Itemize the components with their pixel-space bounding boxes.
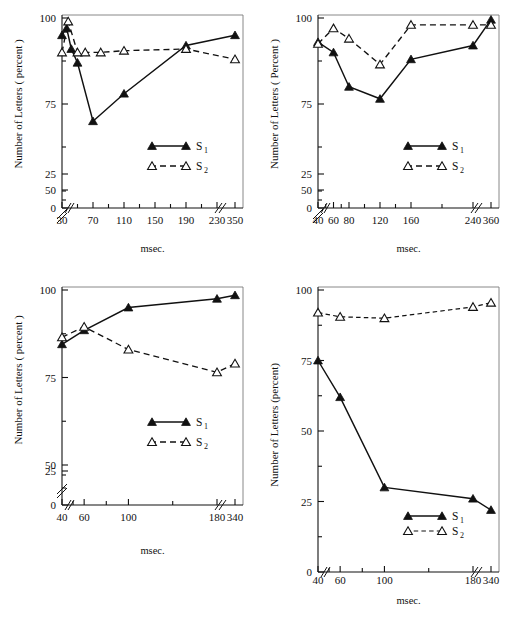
chart-panel-bottom-left: 02550751004060100180340S1S2msec.Number o…: [0, 265, 256, 638]
y-tick-label: 50: [45, 184, 57, 196]
x-axis-title: msec.: [396, 243, 420, 254]
plot-frame: [62, 15, 243, 208]
marker-S2: [469, 303, 478, 311]
x-tick-label: 190: [178, 214, 195, 226]
x-tick-label: 180: [209, 511, 226, 523]
legend-label-s2-sub: 2: [204, 442, 208, 451]
series-line-S1: [62, 28, 235, 121]
x-tick-label: 100: [376, 574, 393, 586]
legend-label-s1: S: [196, 416, 202, 428]
x-tick-label: 60: [328, 214, 340, 226]
marker-S2: [345, 34, 354, 42]
marker-S1: [67, 45, 76, 53]
x-tick-label: 160: [403, 214, 420, 226]
x-axis-title: msec.: [396, 595, 420, 606]
x-tick-label: 150: [147, 214, 164, 226]
series-line-S2: [318, 25, 491, 65]
legend-label-s1-sub: 1: [460, 146, 464, 155]
legend-label-s1-sub: 1: [204, 146, 208, 155]
legend-marker-s2: [404, 527, 413, 535]
x-axis-title: msec.: [140, 545, 164, 556]
legend-label-s2-sub: 2: [460, 531, 464, 540]
x-tick-label: 40: [57, 511, 69, 523]
y-tick-label: 100: [296, 284, 313, 296]
y-tick-label: 75: [45, 372, 57, 384]
legend-label-s2: S: [452, 160, 458, 172]
panel-bottom-right: 02550751004060100180340S1S2msec.Number o…: [256, 265, 511, 638]
marker-S1: [345, 83, 354, 91]
x-tick-label: 360: [483, 214, 500, 226]
marker-S1: [231, 31, 240, 39]
legend-label-s2: S: [196, 436, 202, 448]
x-tick-label: 340: [483, 574, 500, 586]
panel-top-right: 0255075100406080120160240360S1S2msec.Num…: [256, 0, 511, 265]
marker-S2: [80, 323, 89, 331]
marker-S1: [380, 483, 389, 491]
x-tick-label: 40: [313, 214, 325, 226]
y-tick-label: 50: [301, 425, 313, 437]
x-tick-label: 80: [344, 214, 356, 226]
y-tick-label: 100: [40, 12, 57, 24]
legend-label-s1-sub: 1: [204, 422, 208, 431]
marker-S2: [58, 48, 67, 56]
y-tick-label: 75: [301, 355, 313, 367]
legend: S1S2: [148, 416, 208, 451]
x-tick-label: 100: [120, 511, 137, 523]
legend-label-s2: S: [196, 160, 202, 172]
y-axis-title: Number of Letters ( Percent ): [268, 39, 281, 169]
marker-S1: [73, 59, 82, 67]
legend-label-s1: S: [452, 140, 458, 152]
x-tick-label: 340: [227, 511, 244, 523]
marker-S1: [469, 41, 478, 49]
marker-S2: [469, 21, 478, 29]
legend-label-s1: S: [196, 140, 202, 152]
marker-S1: [487, 506, 496, 514]
chart-panel-top-right: 0255075100406080120160240360S1S2msec.Num…: [256, 0, 511, 265]
legend: S1S2: [404, 510, 464, 540]
y-tick-label: 100: [40, 284, 57, 296]
y-tick-label: 100: [296, 12, 313, 24]
marker-S2: [314, 308, 323, 316]
x-tick-label: 350: [227, 214, 244, 226]
x-tick-label: 70: [88, 214, 100, 226]
y-tick-label: 75: [45, 98, 57, 110]
legend: S1S2: [404, 140, 464, 175]
y-axis-title: Number of Letters ( percent ): [12, 39, 25, 169]
x-tick-label: 120: [372, 214, 389, 226]
marker-S1: [329, 48, 338, 56]
legend-label-s1-sub: 1: [460, 516, 464, 525]
y-tick-label: 0: [51, 499, 57, 511]
y-tick-label: 50: [45, 459, 57, 471]
y-tick-label: 25: [301, 496, 313, 508]
series-line-S1: [318, 20, 491, 99]
x-tick-label: 180: [465, 574, 482, 586]
legend-label-s1: S: [452, 510, 458, 522]
chart-panel-bottom-right: 02550751004060100180340S1S2msec.Number o…: [256, 265, 511, 638]
x-tick-label: 110: [116, 214, 133, 226]
marker-S1: [336, 393, 345, 401]
marker-S2: [124, 345, 133, 353]
y-tick-label: 25: [301, 168, 313, 180]
x-tick-label: 60: [335, 574, 347, 586]
y-tick-label: 25: [45, 168, 57, 180]
legend-label-s2-sub: 2: [460, 166, 464, 175]
legend: S1S2: [148, 140, 208, 175]
chart-panel-top-left: 02550751003070110150190230350S1S2msec.Nu…: [0, 0, 256, 265]
series-line-S1: [318, 361, 491, 511]
marker-S2: [231, 359, 240, 367]
y-axis-title: Number of Letters (percent): [268, 363, 281, 487]
y-tick-label: 0: [51, 202, 57, 214]
marker-S2: [329, 24, 338, 32]
marker-S2: [487, 298, 496, 306]
x-axis-title: msec.: [140, 243, 164, 254]
y-tick-label: 0: [307, 202, 313, 214]
x-tick-label: 30: [57, 214, 69, 226]
panel-bottom-left: 02550751004060100180340S1S2msec.Number o…: [0, 265, 256, 638]
figure-sheet: 02550751003070110150190230350S1S2msec.Nu…: [0, 0, 511, 638]
x-tick-label: 230: [209, 214, 226, 226]
panel-top-left: 02550751003070110150190230350S1S2msec.Nu…: [0, 0, 256, 265]
x-tick-label: 240: [465, 214, 482, 226]
series-line-S2: [318, 303, 491, 319]
series-line-S1: [62, 295, 235, 344]
marker-S2: [231, 55, 240, 63]
